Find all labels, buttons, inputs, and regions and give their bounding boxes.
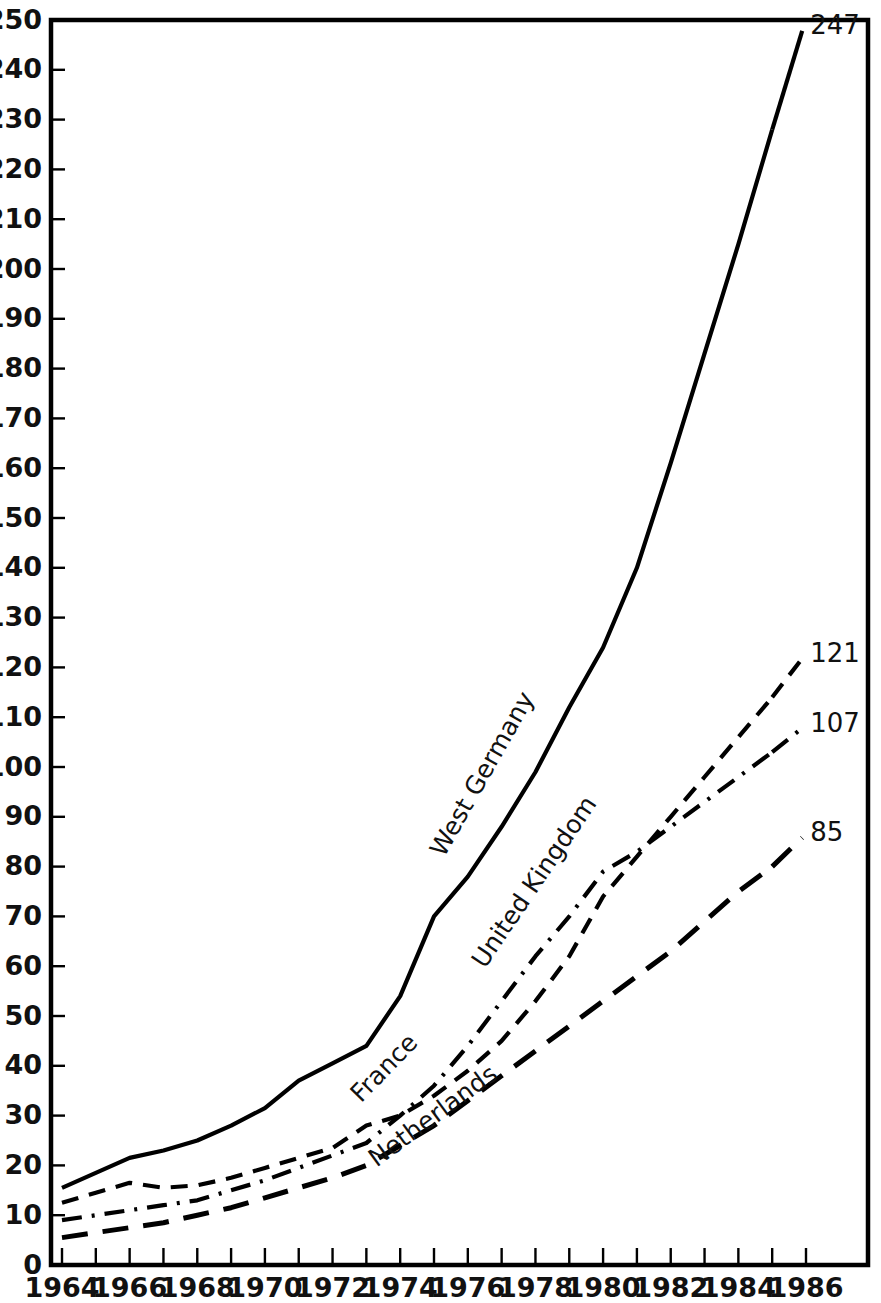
end-value-label-france: 107 bbox=[810, 708, 860, 738]
end-value-label-netherlands: 85 bbox=[810, 817, 843, 847]
x-axis: 1964196619681970197219741976197819801982… bbox=[24, 1248, 843, 1303]
series-lines bbox=[62, 31, 802, 1238]
y-tick-label: 170 bbox=[0, 402, 42, 433]
series-line-west-germany bbox=[62, 130, 772, 1188]
y-axis: 0102030405060708090100110120130140150160… bbox=[0, 4, 65, 1280]
y-tick-label: 70 bbox=[4, 900, 42, 931]
x-tick-label: 1984 bbox=[701, 1272, 776, 1303]
x-tick-label: 1968 bbox=[160, 1272, 235, 1303]
y-tick-label: 140 bbox=[0, 551, 42, 582]
y-tick-label: 30 bbox=[4, 1099, 42, 1130]
y-tick-label: 50 bbox=[4, 1000, 42, 1031]
end-value-label-west-germany: 247 bbox=[810, 10, 860, 40]
series-end-segment bbox=[772, 658, 802, 697]
x-tick-label: 1972 bbox=[295, 1272, 370, 1303]
x-tick-label: 1964 bbox=[24, 1272, 99, 1303]
y-tick-label: 90 bbox=[4, 800, 42, 831]
x-tick-label: 1970 bbox=[227, 1272, 302, 1303]
y-tick-label: 20 bbox=[4, 1149, 42, 1180]
y-tick-label: 60 bbox=[4, 950, 42, 981]
y-tick-label: 190 bbox=[0, 302, 42, 333]
y-tick-label: 10 bbox=[4, 1199, 42, 1230]
y-tick-label: 120 bbox=[0, 651, 42, 682]
end-value-labels: 24712110785 bbox=[810, 10, 860, 847]
series-end-segment bbox=[772, 31, 802, 130]
y-tick-label: 250 bbox=[0, 4, 42, 35]
series-label-west-germany: West Germany bbox=[424, 686, 540, 861]
x-tick-label: 1982 bbox=[633, 1272, 708, 1303]
series-end-segment bbox=[772, 728, 802, 752]
y-tick-label: 210 bbox=[0, 203, 42, 234]
y-tick-label: 40 bbox=[4, 1049, 42, 1080]
y-tick-label: 110 bbox=[0, 701, 42, 732]
y-tick-label: 220 bbox=[0, 153, 42, 184]
y-tick-label: 130 bbox=[0, 601, 42, 632]
y-tick-label: 200 bbox=[0, 253, 42, 284]
x-tick-label: 1980 bbox=[566, 1272, 641, 1303]
y-tick-label: 150 bbox=[0, 502, 42, 533]
x-tick-label: 1986 bbox=[768, 1272, 843, 1303]
y-tick-label: 100 bbox=[0, 751, 42, 782]
line-chart: 0102030405060708090100110120130140150160… bbox=[0, 0, 881, 1303]
y-tick-label: 180 bbox=[0, 352, 42, 383]
y-tick-label: 230 bbox=[0, 103, 42, 134]
y-tick-label: 240 bbox=[0, 53, 42, 84]
y-tick-label: 160 bbox=[0, 452, 42, 483]
y-tick-label: 80 bbox=[4, 850, 42, 881]
x-tick-label: 1974 bbox=[363, 1272, 438, 1303]
x-tick-label: 1966 bbox=[92, 1272, 167, 1303]
x-tick-label: 1976 bbox=[430, 1272, 505, 1303]
series-label-france: France bbox=[345, 1028, 424, 1108]
chart-canvas: 0102030405060708090100110120130140150160… bbox=[0, 0, 881, 1303]
x-tick-label: 1978 bbox=[498, 1272, 573, 1303]
series-end-segment bbox=[772, 838, 802, 867]
series-name-labels: West GermanyUnited KingdomFranceNetherla… bbox=[345, 686, 603, 1172]
end-value-label-united-kingdom: 121 bbox=[810, 638, 860, 668]
series-label-united-kingdom: United Kingdom bbox=[466, 791, 603, 973]
